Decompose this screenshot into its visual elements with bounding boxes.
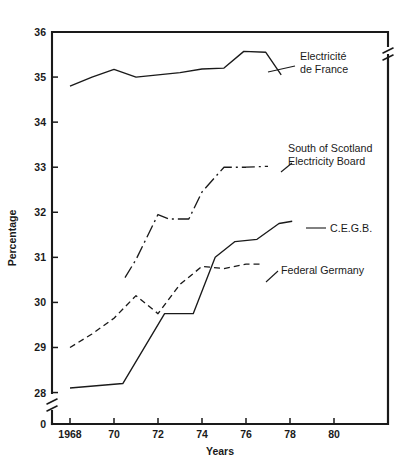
y-tick-label: 29 <box>34 341 46 353</box>
series-lines <box>70 51 292 388</box>
series-label-federal-germany: Federal Germany <box>281 264 365 276</box>
y-tick-label: 36 <box>34 26 46 38</box>
y-tick-label-zero: 0 <box>40 418 46 430</box>
x-tick-label: 72 <box>152 428 164 440</box>
series-line-federal-germany <box>70 264 261 347</box>
series-label-line: Electricité <box>300 50 346 62</box>
x-axis-break-right <box>383 48 393 424</box>
y-axis-title: Percentage <box>6 210 18 267</box>
y-axis-break <box>47 399 57 424</box>
series-annotations: Electricitéde FranceSouth of ScotlandEle… <box>266 50 372 282</box>
x-tick-label: 80 <box>328 428 340 440</box>
series-label-line: Electricity Board <box>288 155 365 167</box>
x-tick-label: 76 <box>240 428 252 440</box>
annotation-leader-electricite-de-france <box>268 66 295 72</box>
series-label-line: South of Scotland <box>288 142 372 154</box>
y-axis-ticks: 2829303132333435360 <box>34 26 58 430</box>
series-label-line: de France <box>300 63 348 75</box>
series-label-line: C.E.G.B. <box>330 222 372 234</box>
series-label-electricite-de-france: Electricitéde France <box>300 50 348 75</box>
y-tick-label: 34 <box>34 116 46 128</box>
x-tick-label: 74 <box>196 428 208 440</box>
x-tick-label: 70 <box>108 428 120 440</box>
series-line-electricit-de-france <box>70 51 281 86</box>
x-tick-label: 78 <box>284 428 296 440</box>
y-tick-label: 30 <box>34 296 46 308</box>
y-tick-label: 31 <box>34 251 46 263</box>
y-break-glyph <box>47 399 57 411</box>
line-chart: 2829303132333435360 1968707274767880 Per… <box>0 0 410 462</box>
chart-container: 2829303132333435360 1968707274767880 Per… <box>0 0 410 462</box>
series-label-south-of-scotland-electricity-board: South of ScotlandElectricity Board <box>288 142 372 167</box>
annotation-leader-federal-germany <box>266 271 278 282</box>
series-label-cegb: C.E.G.B. <box>330 222 372 234</box>
series-label-line: Federal Germany <box>281 264 365 276</box>
y-tick-label: 35 <box>34 71 46 83</box>
x-axis-title: Years <box>206 445 234 457</box>
series-line-south-of-scotland-electricity-board <box>125 166 268 277</box>
series-line-c-e-g-b <box>70 221 292 388</box>
x-tick-label: 1968 <box>58 428 82 440</box>
y-tick-label: 32 <box>34 206 46 218</box>
y-tick-label: 33 <box>34 161 46 173</box>
x-axis-ticks: 1968707274767880 <box>58 418 340 440</box>
y-tick-label: 28 <box>34 387 46 399</box>
